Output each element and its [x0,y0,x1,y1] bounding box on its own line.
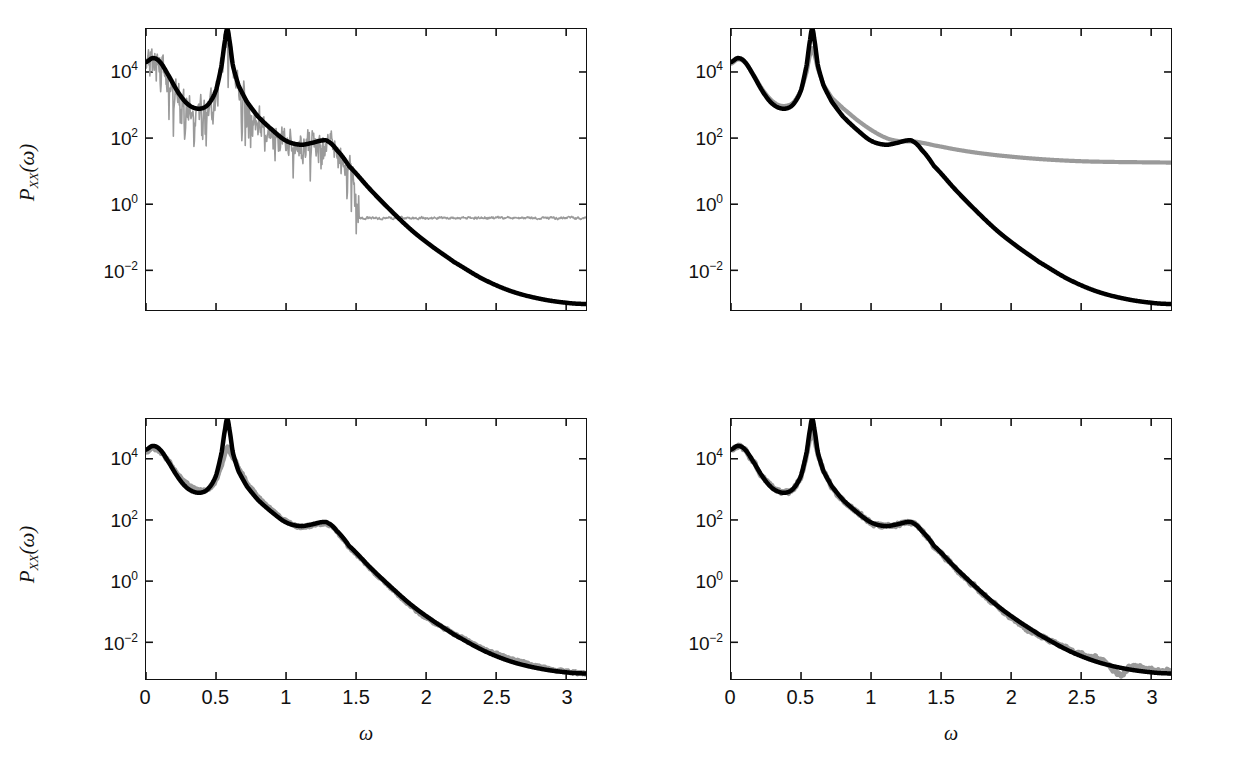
plot-area-bottom-right [730,418,1172,680]
y-tick-exponent: −2 [124,259,138,273]
x-ticklabels-bottom-left: 00.511.522.53 [145,686,587,716]
y-tick-label: 10−2 [104,259,138,282]
y-tick-label: 102 [111,508,138,531]
x-axis-label-bottom-left: ω [359,722,373,745]
y-tick-mantissa: 10 [111,571,132,592]
y-tick-exponent: 2 [131,508,138,522]
y-tick-label: 10−2 [104,631,138,654]
plot-canvas-top-left [146,29,586,310]
y-tick-label: 100 [111,193,138,216]
y-tick-mantissa: 10 [696,571,717,592]
y-tick-mantissa: 10 [111,128,132,149]
y-tick-exponent: 0 [131,193,138,207]
y-tick-exponent: −2 [709,259,723,273]
y-tick-mantissa: 10 [111,194,132,215]
y-tick-mantissa: 10 [689,261,710,282]
y-ticklabels-top-right: 10410210010−2 [665,0,723,360]
y-tick-exponent: 2 [716,508,723,522]
y-tick-label: 102 [111,126,138,149]
y-axis-label-bottom-left: PXX(ω) [15,490,40,620]
x-tick-label: 0 [724,686,735,709]
y-tick-exponent: 0 [716,570,723,584]
x-tick-label: 2 [1006,686,1017,709]
y-tick-mantissa: 10 [696,509,717,530]
y-tick-label: 104 [111,446,138,469]
y-tick-exponent: 2 [716,126,723,140]
y-ticklabels-top-left: 10410210010−2 [80,0,138,360]
panel-bottom-right: 10410210010−2 00.511.522.53 ω [585,392,1243,769]
x-tick-label: 0.5 [786,686,814,709]
y-tick-mantissa: 10 [696,61,717,82]
panel-top-left: PXX(ω) 10410210010−2 [0,0,600,360]
y-tick-mantissa: 10 [104,633,125,654]
x-tick-label: 3 [1147,686,1158,709]
x-tick-label: 0.5 [201,686,229,709]
x-axis-label-bottom-right: ω [944,722,958,745]
y-tick-mantissa: 10 [696,194,717,215]
x-tick-label: 1.5 [342,686,370,709]
y-tick-label: 100 [696,570,723,593]
plot-area-top-right [730,28,1172,311]
y-tick-label: 104 [111,60,138,83]
y-ticklabels-bottom-right: 10410210010−2 [665,392,723,692]
y-tick-mantissa: 10 [689,633,710,654]
x-tick-label: 1.5 [927,686,955,709]
y-ticklabels-bottom-left: 10410210010−2 [80,392,138,692]
y-tick-exponent: 0 [716,193,723,207]
y-axis-label-top-left: PXX(ω) [15,108,40,238]
y-tick-exponent: −2 [124,631,138,645]
x-tick-label: 2.5 [1068,686,1096,709]
x-ticklabels-bottom-right: 00.511.522.53 [730,686,1172,716]
panel-bottom-left: PXX(ω) 10410210010−2 00.511.522.53 ω [0,392,600,769]
y-tick-label: 100 [696,193,723,216]
plot-area-top-left [145,28,587,311]
y-tick-label: 10−2 [689,631,723,654]
y-tick-mantissa: 10 [696,128,717,149]
plot-canvas-bottom-right [731,419,1171,679]
y-tick-mantissa: 10 [696,448,717,469]
y-tick-exponent: 0 [131,570,138,584]
x-tick-label: 0 [139,686,150,709]
y-tick-exponent: 4 [131,60,138,74]
plot-canvas-bottom-left [146,419,586,679]
x-tick-label: 1 [865,686,876,709]
y-tick-exponent: 4 [716,60,723,74]
y-tick-mantissa: 10 [111,61,132,82]
y-tick-exponent: 2 [131,126,138,140]
x-tick-label: 2 [421,686,432,709]
spectral-density-figure: PXX(ω) 10410210010−2 10410210010−2 PXX(ω… [0,0,1243,769]
y-tick-exponent: 4 [716,446,723,460]
y-tick-exponent: 4 [131,446,138,460]
panel-top-right: 10410210010−2 [585,0,1243,360]
y-tick-mantissa: 10 [111,448,132,469]
y-tick-exponent: −2 [709,631,723,645]
x-tick-label: 3 [562,686,573,709]
y-tick-label: 102 [696,126,723,149]
y-tick-label: 100 [111,570,138,593]
plot-area-bottom-left [145,418,587,680]
y-tick-label: 102 [696,508,723,531]
y-tick-label: 104 [696,446,723,469]
y-tick-label: 10−2 [689,259,723,282]
y-tick-mantissa: 10 [111,509,132,530]
x-tick-label: 2.5 [483,686,511,709]
x-tick-label: 1 [280,686,291,709]
plot-canvas-top-right [731,29,1171,310]
y-tick-label: 104 [696,60,723,83]
y-tick-mantissa: 10 [104,261,125,282]
